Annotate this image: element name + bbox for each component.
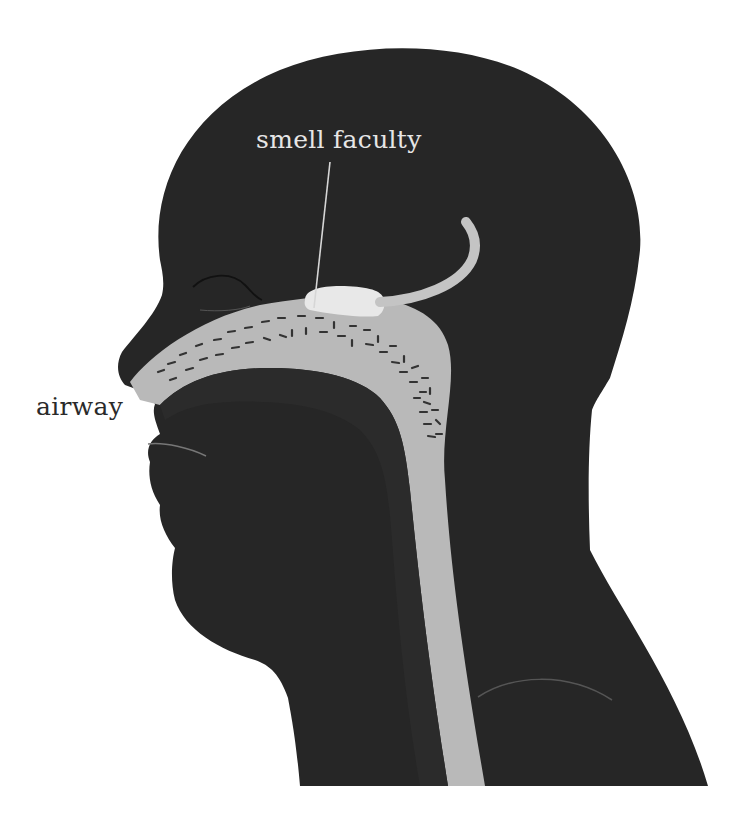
head-diagram: smell faculty airway <box>0 0 743 823</box>
airway-label: airway <box>36 392 123 421</box>
smell-faculty-label: smell faculty <box>256 125 422 154</box>
